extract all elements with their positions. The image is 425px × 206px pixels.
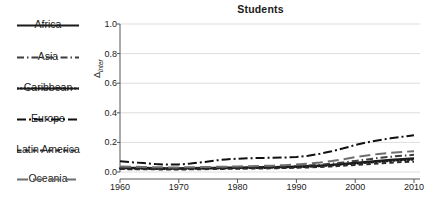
legend-item-asia[interactable]: Asia: [0, 46, 96, 63]
x-tick-label: 2000: [345, 182, 365, 192]
legend-swatch-africa: [17, 14, 79, 17]
chart-legend: AfricaAsiaCaribbeanEuropeLatin AmericaOc…: [0, 0, 96, 206]
series-line-europe: [120, 135, 414, 164]
x-tick-label: 1980: [228, 182, 248, 192]
chart-canvas: [96, 0, 425, 206]
x-tick-label: 1970: [169, 182, 189, 192]
legend-item-caribbean[interactable]: Caribbean: [0, 77, 96, 94]
x-tick-label: 1960: [110, 182, 130, 192]
legend-swatch-oceania: [17, 168, 79, 171]
legend-swatch-latin-america: [17, 139, 79, 142]
legend-item-oceania[interactable]: Oceania: [0, 168, 96, 185]
legend-swatch-asia: [17, 46, 79, 49]
x-tick-label: 1990: [286, 182, 306, 192]
legend-item-africa[interactable]: Africa: [0, 14, 96, 31]
legend-item-europe[interactable]: Europe: [0, 108, 96, 125]
legend-swatch-europe: [17, 108, 79, 111]
plot-area-wrapper: Students Δinter 0.00.20.40.60.81.0 19601…: [96, 0, 425, 206]
legend-item-latin-america[interactable]: Latin America: [0, 139, 96, 156]
legend-swatch-caribbean: [17, 77, 79, 80]
chart-root: AfricaAsiaCaribbeanEuropeLatin AmericaOc…: [0, 0, 425, 206]
x-tick-label: 2010: [404, 182, 424, 192]
